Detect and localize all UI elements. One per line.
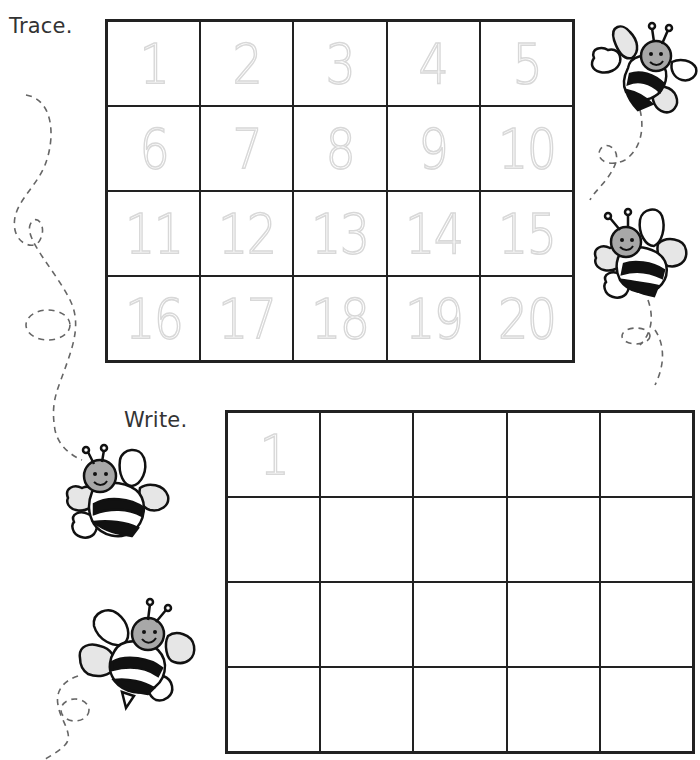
bee-icon: [78, 596, 202, 712]
bee-icon: [588, 18, 700, 116]
bee-icon: [588, 200, 700, 310]
bee-icon: [64, 440, 176, 550]
